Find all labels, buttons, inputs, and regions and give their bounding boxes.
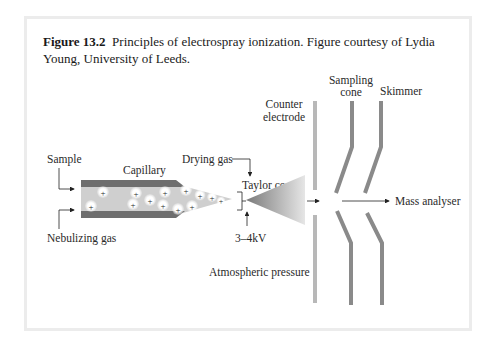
counter-electrode-label-1: Counter bbox=[265, 98, 302, 110]
sampling-cone-top bbox=[336, 101, 352, 193]
mass-analyser-label: Mass analyser bbox=[395, 195, 461, 208]
nebulizing-gas-label: Nebulizing gas bbox=[47, 232, 117, 245]
drying-gas-arrow bbox=[232, 159, 250, 176]
svg-text:+: + bbox=[183, 186, 188, 196]
esi-diagram: Sample Nebulizing gas Capillary + + + + … bbox=[0, 0, 498, 350]
atmospheric-pressure-label: Atmospheric pressure bbox=[209, 266, 310, 279]
skimmer-bottom bbox=[367, 213, 382, 305]
svg-text:+: + bbox=[197, 191, 202, 201]
svg-text:+: + bbox=[162, 188, 167, 198]
voltage-label: 3–4kV bbox=[235, 232, 267, 244]
counter-electrode-label-2: electrode bbox=[263, 111, 305, 123]
svg-text:+: + bbox=[147, 196, 152, 206]
svg-text:+: + bbox=[88, 202, 93, 212]
capillary-label: Capillary bbox=[123, 164, 166, 177]
counter-electrode-top bbox=[313, 101, 317, 190]
svg-text:+: + bbox=[175, 205, 180, 215]
svg-text:+: + bbox=[133, 189, 138, 199]
skimmer-label: Skimmer bbox=[380, 85, 422, 97]
svg-text:+: + bbox=[189, 202, 194, 212]
sample-arrow bbox=[59, 168, 74, 189]
nebulizing-gas-arrow bbox=[59, 210, 74, 229]
sampling-cone-bottom bbox=[337, 211, 351, 305]
skimmer-top bbox=[365, 101, 381, 193]
svg-text:+: + bbox=[209, 193, 214, 203]
svg-text:+: + bbox=[160, 201, 165, 211]
sampling-cone-label-2: cone bbox=[340, 86, 362, 98]
capillary-bottom-wall bbox=[81, 211, 185, 218]
svg-text:+: + bbox=[219, 197, 224, 206]
counter-electrode-bottom bbox=[313, 215, 317, 303]
capillary-top-wall bbox=[81, 180, 185, 187]
voltage-bracket bbox=[237, 192, 246, 210]
drying-gas-label: Drying gas bbox=[182, 153, 233, 166]
svg-text:+: + bbox=[130, 200, 135, 210]
svg-text:+: + bbox=[100, 188, 105, 198]
sample-label: Sample bbox=[47, 153, 82, 166]
